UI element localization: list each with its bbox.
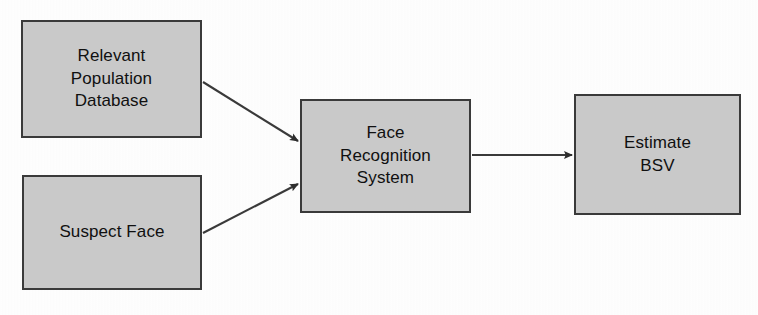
node-label-suspect-face: Suspect Face: [53, 221, 170, 244]
node-suspect-face: Suspect Face: [22, 175, 202, 290]
node-label-estimate-bsv: Estimate BSV: [618, 132, 697, 177]
node-label-relevant-population-database: Relevant Population Database: [65, 45, 158, 113]
connector-suspect-to-system: [203, 184, 298, 233]
node-estimate-bsv: Estimate BSV: [574, 94, 741, 215]
node-relevant-population-database: Relevant Population Database: [21, 20, 202, 138]
node-label-face-recognition-system: Face Recognition System: [334, 122, 437, 190]
connector-database-to-system: [203, 82, 298, 141]
diagram-canvas: Relevant Population Database Suspect Fac…: [0, 0, 758, 315]
node-face-recognition-system: Face Recognition System: [300, 99, 471, 213]
